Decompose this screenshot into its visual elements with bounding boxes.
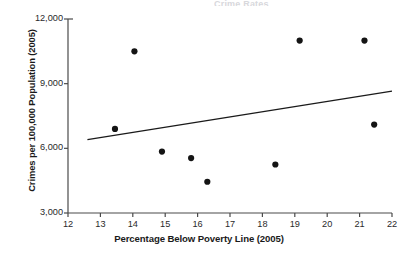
y-tick-label: 3,000 (21, 207, 63, 217)
x-tick-label: 20 (315, 219, 339, 229)
x-tick-label: 22 (380, 219, 398, 229)
x-tick-label: 16 (186, 219, 210, 229)
x-tick-label: 14 (121, 219, 145, 229)
x-tick-label: 15 (153, 219, 177, 229)
regression-line (87, 91, 392, 139)
x-tick-label: 18 (250, 219, 274, 229)
y-tick-label: 6,000 (21, 142, 63, 152)
data-point (188, 155, 194, 161)
data-point (112, 126, 118, 132)
data-point (361, 37, 367, 43)
x-tick-label: 19 (283, 219, 307, 229)
data-point (297, 37, 303, 43)
data-point (371, 122, 377, 128)
data-points (112, 37, 377, 184)
x-tick-label: 12 (56, 219, 80, 229)
x-tick-label: 17 (218, 219, 242, 229)
axis-ticks (64, 19, 392, 217)
data-point (272, 161, 278, 167)
x-axis-title: Percentage Below Poverty Line (2005) (0, 233, 398, 244)
x-tick-label: 21 (348, 219, 372, 229)
data-point (204, 179, 210, 185)
y-tick-label: 12,000 (21, 13, 63, 23)
data-point (131, 48, 137, 54)
y-tick-label: 9,000 (21, 78, 63, 88)
axes (68, 19, 392, 213)
trend-line (87, 91, 392, 139)
scatter-plot-figure: Crime Rates Crimes per 100,000 Populatio… (0, 0, 398, 253)
data-point (159, 148, 165, 154)
x-tick-label: 13 (88, 219, 112, 229)
